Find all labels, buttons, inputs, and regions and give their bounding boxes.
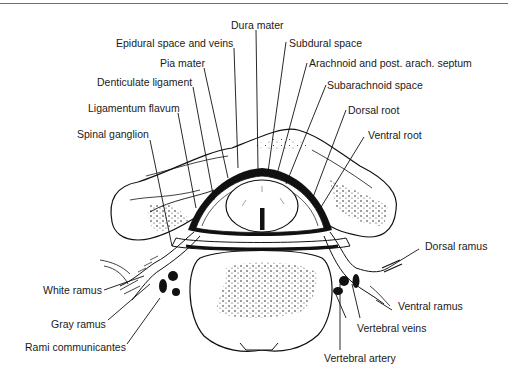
label-dura-mater: Dura mater xyxy=(231,19,284,31)
label-gray-ramus: Gray ramus xyxy=(51,318,106,330)
label-ventral-root: Ventral root xyxy=(368,129,422,141)
label-epidural-space-and-veins: Epidural space and veins xyxy=(116,37,233,49)
label-ventral-ramus: Ventral ramus xyxy=(398,300,463,312)
label-spinal-ganglion: Spinal ganglion xyxy=(77,128,149,140)
vertebral-body xyxy=(190,251,332,352)
label-ligamentum-flavum: Ligamentum flavum xyxy=(88,102,180,114)
label-pia-mater: Pia mater xyxy=(160,57,205,69)
label-rami-communicantes: Rami communicantes xyxy=(25,341,126,353)
label-vertebral-artery: Vertebral artery xyxy=(324,352,396,364)
label-arachnoid-and-post-arach-septum: Arachnoid and post. arach. septum xyxy=(309,57,472,69)
label-white-ramus: White ramus xyxy=(43,284,102,296)
label-dorsal-root: Dorsal root xyxy=(348,104,399,116)
label-denticulate-ligament: Denticulate ligament xyxy=(97,76,192,88)
label-dorsal-ramus: Dorsal ramus xyxy=(425,240,487,252)
label-subdural-space: Subdural space xyxy=(289,37,362,49)
label-vertebral-veins: Vertebral veins xyxy=(357,322,426,334)
spinal-cord xyxy=(226,180,298,232)
label-subarachnoid-space: Subarachnoid space xyxy=(327,79,423,91)
